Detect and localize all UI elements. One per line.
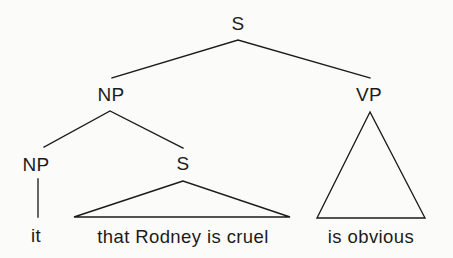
node-label-expletive-np: NP xyxy=(23,154,50,175)
root-s-branches xyxy=(112,40,370,78)
tree-svg: S NP VP NP S it that Rodney is cruel is … xyxy=(0,0,453,258)
node-label-embedded-s: S xyxy=(177,153,190,174)
terminal-clause: that Rodney is cruel xyxy=(97,226,269,247)
embedded-s-triangle xyxy=(74,181,290,217)
node-label-predicate-vp: VP xyxy=(356,84,382,105)
syntax-tree-diagram: S NP VP NP S it that Rodney is cruel is … xyxy=(0,0,453,258)
node-label-subject-np: NP xyxy=(98,84,125,105)
terminal-predicate: is obvious xyxy=(328,226,414,247)
node-label-root-s: S xyxy=(232,13,245,34)
vp-triangle xyxy=(317,112,425,218)
terminal-expletive: it xyxy=(31,225,41,246)
subject-np-branches xyxy=(44,111,183,148)
